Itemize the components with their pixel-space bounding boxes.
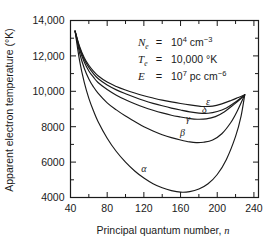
line-chart: 4080120160200240 40006000800010,00012,00… (0, 0, 273, 242)
y-tick-label: 4000 (41, 191, 65, 203)
y-tick-label: 12,000 (32, 50, 64, 62)
x-axis-title-variable: n (224, 225, 229, 236)
y-tick-label: 14,000 (32, 14, 64, 26)
curve-label-ε: ε (206, 96, 210, 107)
x-tick-label: 80 (101, 202, 113, 214)
annotation-value-electron-temperature: 10,000 °K (171, 53, 217, 65)
x-tick-label: 200 (208, 202, 226, 214)
figure-container: 4080120160200240 40006000800010,00012,00… (0, 0, 273, 242)
y-tick-label: 8000 (41, 121, 65, 133)
x-tick-label: 160 (172, 202, 190, 214)
curve-label-β: β (179, 127, 185, 138)
annotation-equals-electron-density: = (156, 36, 162, 48)
x-tick-label: 120 (135, 202, 153, 214)
x-tick-label: 40 (65, 202, 77, 214)
x-axis-title-main: Principal quantum number, (96, 224, 224, 236)
x-axis-title: Principal quantum number, n (96, 224, 229, 236)
x-tick-label: 240 (245, 202, 263, 214)
curve-label-α: α (141, 163, 147, 174)
y-tick-label: 6000 (41, 156, 65, 168)
y-tick-label: 10,000 (32, 85, 64, 97)
y-axis-title: Apparent electron temperature (°K) (3, 28, 15, 192)
annotation-equals-electron-temperature: = (156, 53, 162, 65)
annotation-equals-emission-measure: = (156, 70, 162, 82)
annotation-symbol-emission-measure: E (137, 70, 145, 82)
